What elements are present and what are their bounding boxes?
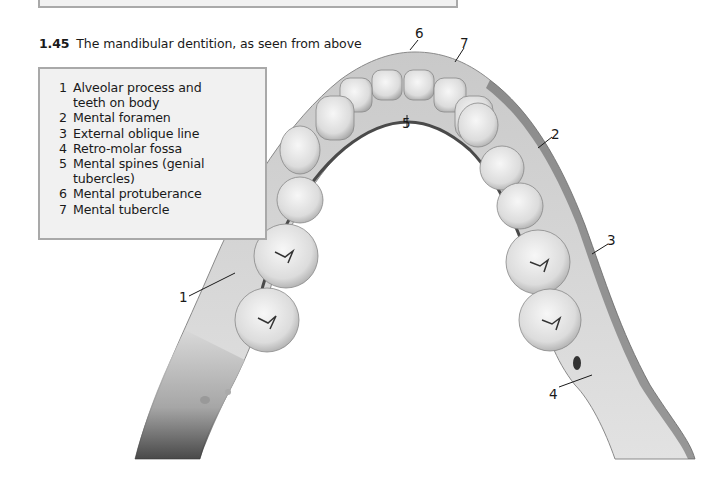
legend-item: 2Mental foramen (59, 110, 223, 125)
label-3: 3 (607, 232, 616, 248)
legend-item: 3External oblique line (59, 126, 223, 141)
label-5: 5 (402, 115, 411, 131)
legend-list: 1Alveolar process and teeth on body 2Men… (59, 80, 223, 217)
label-6: 6 (415, 25, 424, 41)
legend-item: 5Mental spines (genial tubercles) (59, 156, 223, 186)
label-7: 7 (460, 35, 469, 51)
legend-item: 1Alveolar process and teeth on body (59, 80, 223, 110)
legend-item: 4Retro-molar fossa (59, 141, 223, 156)
label-1: 1 (179, 289, 188, 305)
legend-box: 1Alveolar process and teeth on body 2Men… (38, 67, 267, 240)
legend-item: 7Mental tubercle (59, 202, 223, 217)
label-4: 4 (549, 386, 558, 402)
label-2: 2 (551, 126, 560, 142)
legend-item: 6Mental protuberance (59, 186, 223, 201)
